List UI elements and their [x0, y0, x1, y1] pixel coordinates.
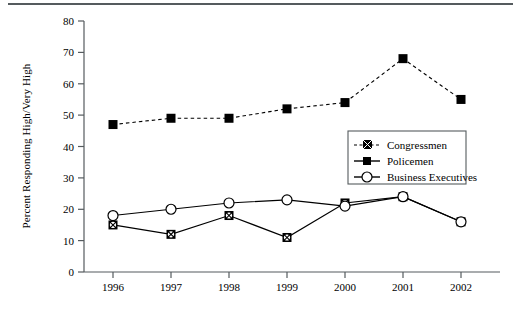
y-tick-label: 30 [63, 172, 75, 184]
data-point-policemen-1997 [167, 230, 176, 239]
data-point-business-executives-1998 [224, 198, 234, 208]
y-tick-label: 0 [69, 266, 75, 278]
data-point-congressmen-1998 [225, 114, 234, 123]
x-tick-label: 1998 [218, 281, 241, 293]
data-point-congressmen-2001 [399, 54, 408, 63]
y-tick-label: 40 [63, 141, 75, 153]
y-tick-label: 50 [63, 109, 75, 121]
chart-legend: Congressmen Policemen Business Executive… [348, 131, 477, 184]
y-tick-label: 80 [63, 15, 75, 27]
series-line-congressmen [113, 59, 461, 125]
y-tick-label: 60 [63, 78, 75, 90]
data-point-business-executives-2001 [398, 192, 408, 202]
data-point-policemen-1996 [109, 220, 118, 229]
x-axis-ticks [113, 272, 461, 278]
x-tick-label: 2001 [392, 281, 414, 293]
legend-label-congressmen: Congressmen [387, 139, 447, 151]
data-point-congressmen-1997 [167, 114, 176, 123]
y-tick-label: 10 [63, 235, 75, 247]
legend-label-policemen: Policemen [387, 155, 434, 167]
y-axis-ticks [78, 21, 84, 272]
x-tick-label: 1999 [276, 281, 299, 293]
y-tick-label: 70 [63, 46, 75, 58]
legend-marker-business-executives [362, 172, 372, 182]
legend-marker-policemen [363, 157, 371, 165]
data-point-congressmen-2000 [341, 98, 350, 107]
data-point-congressmen-1996 [109, 120, 118, 129]
x-axis-tick-labels: 1996 1997 1998 1999 2000 2001 2002 [102, 281, 472, 293]
chart-figure: Percent Responding High/Very High 80 70 … [0, 0, 521, 314]
data-point-business-executives-2000 [340, 201, 350, 211]
data-point-business-executives-1996 [108, 211, 118, 221]
data-point-business-executives-1999 [282, 195, 292, 205]
plot-area: 80 70 60 50 40 30 20 10 0 1996 1997 1998… [0, 0, 521, 314]
x-tick-label: 2000 [334, 281, 357, 293]
y-axis-tick-labels: 80 70 60 50 40 30 20 10 0 [63, 15, 75, 278]
x-tick-label: 1997 [160, 281, 183, 293]
x-tick-label: 2002 [450, 281, 472, 293]
data-point-policemen-1999 [283, 233, 292, 242]
data-point-business-executives-2002 [456, 217, 466, 227]
data-point-congressmen-1999 [283, 104, 292, 113]
data-point-congressmen-2002 [457, 95, 466, 104]
data-point-business-executives-1997 [166, 204, 176, 214]
data-point-policemen-1998 [225, 211, 234, 220]
legend-label-business-executives: Business Executives [387, 171, 477, 183]
x-tick-label: 1996 [102, 281, 125, 293]
y-tick-label: 20 [63, 203, 75, 215]
